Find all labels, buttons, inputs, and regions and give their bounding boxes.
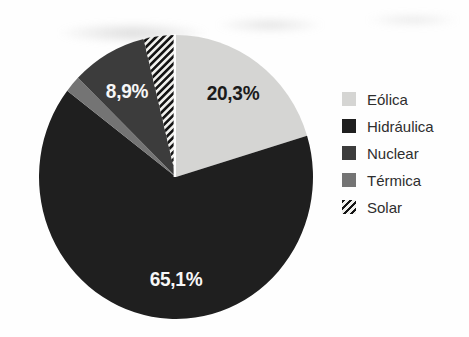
legend-label-termica: Térmica <box>367 173 421 188</box>
legend-swatch-eolica <box>342 92 356 106</box>
legend-swatch-termica <box>342 173 356 187</box>
slice-label-hidraulica: 65,1% <box>150 269 203 290</box>
legend-item-solar: Solar <box>342 200 434 214</box>
legend-label-eolica: Eólica <box>367 92 408 107</box>
figure-pie-chart: 20,3%65,1%8,9% EólicaHidráulicaNuclearTé… <box>0 0 469 337</box>
legend-item-nuclear: Nuclear <box>342 146 434 160</box>
legend-item-hidraulica: Hidráulica <box>342 119 434 133</box>
legend-label-hidraulica: Hidráulica <box>367 119 434 134</box>
legend-item-termica: Térmica <box>342 173 434 187</box>
legend: EólicaHidráulicaNuclearTérmicaSolar <box>342 92 434 214</box>
legend-label-nuclear: Nuclear <box>367 146 419 161</box>
slice-label-nuclear: 8,9% <box>106 81 148 102</box>
legend-item-eolica: Eólica <box>342 92 434 106</box>
slice-label-eolica: 20,3% <box>207 83 260 104</box>
legend-swatch-nuclear <box>342 146 356 160</box>
legend-swatch-hidraulica <box>342 119 356 133</box>
legend-label-solar: Solar <box>367 200 402 215</box>
legend-swatch-solar <box>342 200 356 214</box>
